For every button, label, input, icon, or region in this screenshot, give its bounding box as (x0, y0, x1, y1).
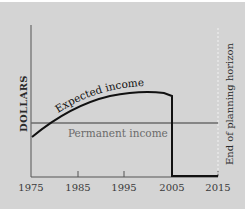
chart-svg: Expected income Permanent income DOLLARS… (0, 2, 245, 209)
permanent-income-label: Permanent income (68, 127, 168, 139)
horizon-label: End of planning horizon (224, 42, 235, 165)
chart-figure: Expected income Permanent income DOLLARS… (0, 2, 245, 209)
tick-label-2015: 2015 (205, 182, 230, 193)
tick-label-1985: 1985 (65, 182, 90, 193)
tick-label-2005: 2005 (159, 182, 184, 193)
y-axis-label: DOLLARS (18, 75, 29, 132)
tick-label-1975: 1975 (18, 182, 43, 193)
tick-label-1995: 1995 (111, 182, 136, 193)
expected-income-label: Expected income (53, 76, 145, 115)
